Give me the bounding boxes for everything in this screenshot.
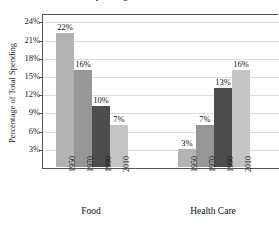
x-tick-label-year: 2010 [122, 156, 131, 172]
gridline [43, 22, 279, 23]
y-tick-mark [39, 22, 43, 23]
y-tick-label: 24% [24, 17, 40, 26]
y-tick-mark [39, 41, 43, 42]
x-axis-group-label: Food [39, 206, 143, 216]
y-tick-mark [39, 95, 43, 96]
y-tick-mark [39, 132, 43, 133]
y-tick-label: 12% [24, 90, 40, 99]
x-tick-label-year: 1950 [190, 156, 199, 172]
bar-value-label: 16% [70, 60, 96, 69]
y-tick-label: 9% [29, 108, 40, 117]
x-tick-label-year: 2010 [244, 156, 253, 172]
y-tick-mark [39, 59, 43, 60]
y-tick-label: 3% [29, 145, 40, 154]
x-tick-label-year: 1970 [86, 156, 95, 172]
y-tick-mark [39, 113, 43, 114]
bar [232, 70, 250, 167]
x-tick-label-year: 1950 [68, 156, 77, 172]
y-tick-mark [39, 77, 43, 78]
y-tick-label: 18% [24, 53, 40, 62]
bar-value-label: 22% [52, 23, 78, 32]
x-tick-label-year: 1990 [226, 156, 235, 172]
bar [74, 70, 92, 167]
y-tick-label: 15% [24, 72, 40, 81]
y-tick-mark [39, 150, 43, 151]
bar-value-label: 7% [106, 115, 132, 124]
bar-value-label: 10% [88, 96, 114, 105]
x-axis-group-label: Health Care [161, 206, 265, 216]
y-tick-label: 21% [24, 35, 40, 44]
x-tick-label-year: 1970 [208, 156, 217, 172]
plot-area: 22%16%10%7%3%7%13%16% [42, 14, 278, 168]
y-axis-tick-labels: 3%6%9%12%15%18%21%24% [14, 14, 40, 168]
x-tick-label-year: 1990 [104, 156, 113, 172]
y-tick-label: 6% [29, 126, 40, 135]
chart-title: Consumer Spending on Food and Health Car… [0, 0, 279, 1]
gridline [43, 41, 279, 42]
bar [56, 33, 74, 167]
bar-chart: Consumer Spending on Food and Health Car… [0, 0, 279, 226]
bar-value-label: 16% [228, 60, 254, 69]
